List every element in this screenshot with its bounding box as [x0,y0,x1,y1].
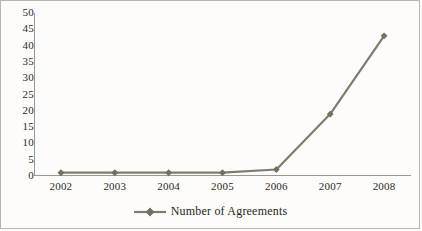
y-axis-tick-label: 0 [10,170,34,181]
chart-legend: Number of Agreements [1,204,419,219]
data-point-marker [58,169,65,176]
series-number-of-agreements [34,13,411,176]
y-axis-tick-label: 5 [10,154,34,165]
y-axis-tick-label: 20 [10,105,34,116]
x-axis-tick-label: 2008 [373,180,396,192]
plot-region [34,13,411,176]
x-axis-tick-label: 2002 [50,180,73,192]
data-point-marker [111,169,118,176]
x-axis-tick-label: 2005 [211,180,234,192]
series-line [61,36,384,173]
y-axis-tick-label: 10 [10,137,34,148]
y-axis-tick-label: 40 [10,40,34,51]
x-axis-tick-labels: 2002200320042005200620072008 [34,180,411,196]
x-axis-tick-label: 2003 [103,180,126,192]
data-point-marker [219,169,226,176]
data-point-marker [165,169,172,176]
y-axis-tick-label: 30 [10,72,34,83]
x-axis-tick-label: 2004 [157,180,180,192]
y-axis-tick-label: 45 [10,23,34,34]
y-axis-tick-label: 15 [10,121,34,132]
line-chart-figure: 05101520253035404550 2002200320042005200… [0,0,420,229]
legend-diamond-line-marker-icon [133,206,167,218]
y-axis-tick-label: 50 [10,7,34,18]
x-axis-tick-label: 2006 [265,180,288,192]
x-axis-tick-label: 2007 [319,180,342,192]
y-axis-tick-label: 35 [10,56,34,67]
y-axis-tick-label: 25 [10,89,34,100]
legend-entry-label: Number of Agreements [171,204,288,219]
